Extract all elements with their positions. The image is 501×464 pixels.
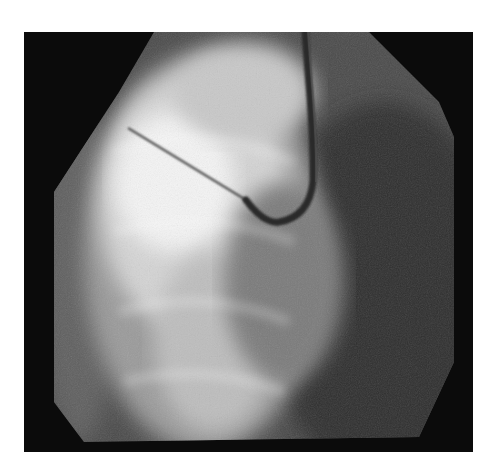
fluoroscopy-image xyxy=(24,32,473,452)
collimated-field xyxy=(24,32,473,452)
xray-scene xyxy=(24,32,473,452)
